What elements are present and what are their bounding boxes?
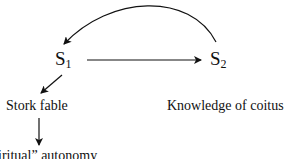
node-s2: S2	[210, 48, 227, 72]
arrow-s1-to-stork-fable	[41, 75, 62, 93]
curved-arrow-s2-to-s1	[64, 6, 216, 44]
diagram-arrows	[0, 0, 289, 159]
node-s1-label: S	[55, 48, 66, 69]
node-s2-subscript: 2	[221, 57, 227, 71]
caption-knowledge-of-coitus: Knowledge of coitus	[167, 98, 284, 114]
node-s1-subscript: 1	[66, 57, 72, 71]
caption-autonomy: iritual” autonomy	[0, 148, 97, 159]
node-s2-label: S	[210, 48, 221, 69]
caption-stork-fable: Stork fable	[6, 98, 68, 114]
node-s1: S1	[55, 48, 72, 72]
